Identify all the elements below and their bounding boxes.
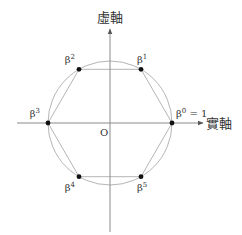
beta-5-label: β5	[137, 181, 147, 193]
beta-0-point	[170, 121, 175, 126]
beta-0-label: β0 = 1	[176, 107, 207, 119]
imaginary-axis-label: 虛軸	[97, 10, 123, 25]
real-axis-label: 實軸	[206, 116, 232, 131]
beta-5-point	[139, 174, 144, 179]
beta-3-point	[46, 121, 51, 126]
beta-3-label: β3	[30, 107, 40, 119]
beta-2-point	[77, 67, 82, 72]
roots-of-unity-diagram: 虛軸 實軸 O β0 = 1β1β2β3β4β5	[0, 0, 242, 235]
beta-1-point	[139, 67, 144, 72]
beta-2-label: β2	[65, 53, 75, 65]
origin-label: O	[100, 127, 108, 138]
beta-4-point	[77, 174, 82, 179]
beta-4-label: β4	[65, 181, 76, 193]
beta-1-label: β1	[137, 53, 147, 65]
